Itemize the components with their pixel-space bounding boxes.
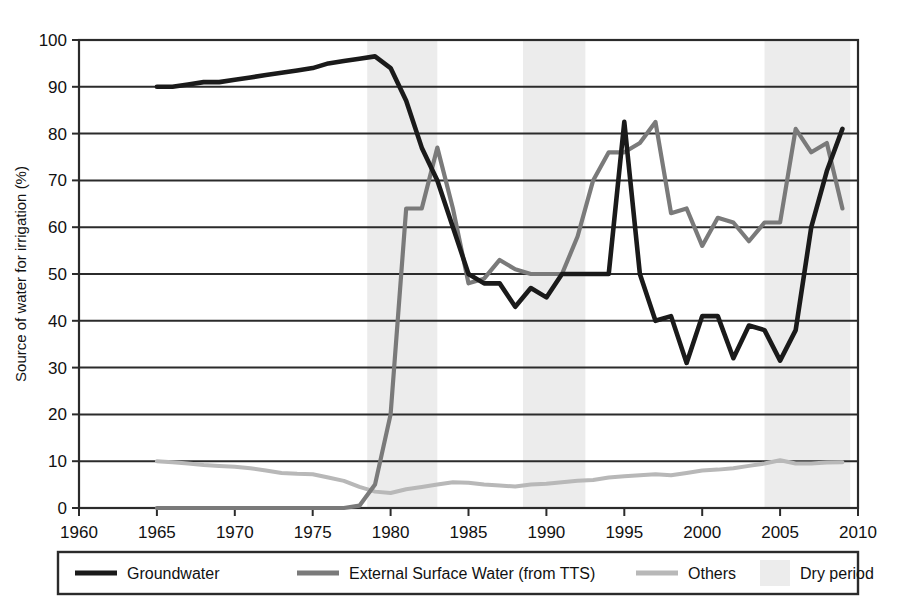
chart-svg: 1009080706050403020100 19601965197019751… [0,0,913,610]
y-axis-title: Source of water for irrigation (%) [12,166,29,382]
legend-swatch-dry-period [760,560,790,586]
y-tick-label-100: 100 [39,31,67,50]
y-tick-label-10: 10 [48,452,67,471]
x-tick-label-1995: 1995 [605,523,643,542]
legend-label-4: Dry period [800,565,874,582]
legend-label-2: External Surface Water (from TTS) [349,565,595,582]
y-tick-label-70: 70 [48,171,67,190]
legend-label-1: Groundwater [127,565,220,582]
x-tick-label-1975: 1975 [294,523,332,542]
x-tick-label-1990: 1990 [527,523,565,542]
x-tick-label-1980: 1980 [372,523,410,542]
x-tick-label-2005: 2005 [761,523,799,542]
y-tick-label-50: 50 [48,265,67,284]
legend-label-3: Others [688,565,736,582]
y-tick-label-90: 90 [48,78,67,97]
x-tick-label-1970: 1970 [216,523,254,542]
x-tick-label-1960: 1960 [60,523,98,542]
chart-legend: GroundwaterExternal Surface Water (from … [58,552,874,594]
x-tick-label-2000: 2000 [683,523,721,542]
chart-figure: 1009080706050403020100 19601965197019751… [0,0,913,610]
y-tick-label-80: 80 [48,125,67,144]
y-tick-label-40: 40 [48,312,67,331]
y-tick-label-30: 30 [48,359,67,378]
x-tick-label-2010: 2010 [839,523,877,542]
y-tick-label-60: 60 [48,218,67,237]
x-tick-label-1985: 1985 [450,523,488,542]
y-tick-label-20: 20 [48,405,67,424]
x-tick-label-1965: 1965 [138,523,176,542]
y-tick-label-0: 0 [58,499,67,518]
